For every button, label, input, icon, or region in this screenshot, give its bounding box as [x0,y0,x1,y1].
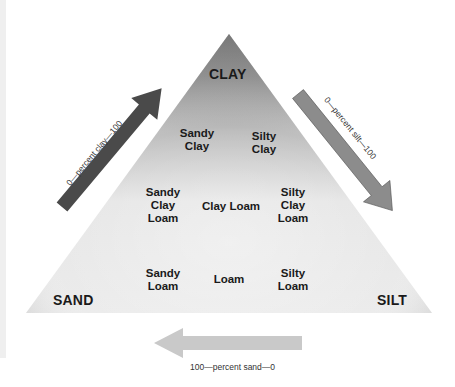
sand-axis-label: 100—percent sand—0 [190,362,275,372]
region-silty-clay-loam: Silty Clay Loam [268,186,318,225]
region-sandy-loam: Sandy Loam [138,267,188,293]
soil-texture-triangle [0,0,455,387]
corner-label-clay: CLAY [209,66,247,82]
corner-label-silt: SILT [377,292,407,308]
sand-axis-arrow [154,328,302,358]
region-silty-clay: Silty Clay [239,130,289,156]
region-silty-loam: Silty Loam [268,267,318,293]
region-clay-loam: Clay Loam [196,200,266,213]
corner-label-sand: SAND [53,292,93,308]
region-sandy-clay-loam: Sandy Clay Loam [138,186,188,225]
region-loam: Loam [204,273,254,286]
region-sandy-clay: Sandy Clay [172,127,222,153]
